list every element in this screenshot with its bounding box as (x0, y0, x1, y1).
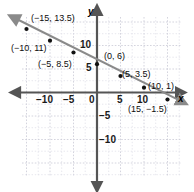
coordinate-plane-figure: y x −10 −5 0 5 10 10 5 −5 −10 (−15, 13.5… (0, 0, 194, 192)
point-label-neg5: (−5, 8.5) (38, 60, 72, 69)
y-tick-label-neg5: −5 (99, 111, 110, 121)
data-point (142, 86, 146, 90)
point-label-neg15: (−15, 13.5) (31, 14, 75, 23)
data-point (24, 27, 28, 31)
point-label-5: (5, 3.5) (122, 70, 151, 79)
data-point (95, 62, 99, 66)
x-tick-label-neg10: −10 (36, 95, 53, 105)
point-label-zero: (0, 6) (104, 52, 125, 61)
x-axis-label: x (178, 94, 184, 104)
y-tick-label-5: 5 (86, 63, 92, 73)
point-label-15: (15, −1.5) (128, 105, 167, 114)
point-label-10: (10, 1) (148, 82, 174, 91)
data-point (165, 97, 169, 101)
x-tick-label-neg5: −5 (63, 95, 74, 105)
point-label-neg10: (−10, 11) (11, 44, 47, 53)
x-tick-label-zero: 0 (89, 95, 95, 105)
data-point (48, 39, 52, 43)
y-tick-label-10: 10 (80, 40, 91, 50)
graph-canvas (0, 0, 194, 192)
x-tick-label-5: 5 (117, 95, 123, 105)
data-point (71, 50, 75, 54)
y-tick-label-neg10: −10 (99, 135, 116, 145)
y-axis-label: y (88, 7, 94, 17)
